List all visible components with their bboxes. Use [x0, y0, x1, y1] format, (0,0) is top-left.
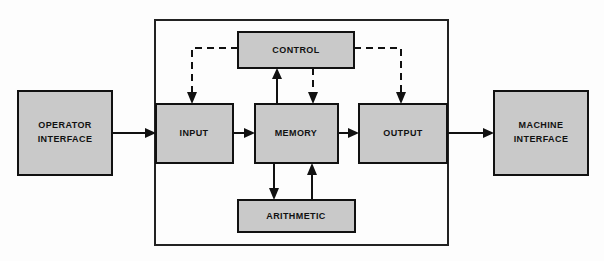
- connector-control-to-memory: [308, 68, 318, 104]
- output-rect[interactable]: [359, 104, 447, 163]
- connector-output-to-machine: [447, 128, 494, 138]
- connector-memory-to-output: [338, 128, 359, 138]
- connector-control-to-output: [354, 48, 406, 104]
- diagram-canvas: OPERATOR INTERFACE CONTROL INPUT MEMORY …: [0, 0, 604, 261]
- block-control[interactable]: CONTROL: [238, 32, 354, 68]
- connector-operator-to-input: [112, 128, 156, 138]
- connector-arithmetic-to-memory: [307, 163, 317, 200]
- connector-input-to-memory: [233, 128, 255, 138]
- control-rect[interactable]: [238, 32, 354, 68]
- connector-memory-to-arithmetic: [269, 163, 279, 200]
- block-operator-interface[interactable]: OPERATOR INTERFACE: [18, 91, 112, 175]
- memory-rect[interactable]: [255, 104, 338, 163]
- connector-control-to-input: [187, 48, 238, 104]
- block-machine-interface[interactable]: MACHINE INTERFACE: [494, 91, 588, 175]
- operator-interface-rect[interactable]: [18, 91, 112, 175]
- block-arithmetic[interactable]: ARITHMETIC: [238, 200, 355, 232]
- block-diagram: OPERATOR INTERFACE CONTROL INPUT MEMORY …: [0, 0, 604, 261]
- connector-memory-to-control: [272, 68, 282, 104]
- input-rect[interactable]: [156, 104, 233, 163]
- machine-interface-rect[interactable]: [494, 91, 588, 175]
- block-input[interactable]: INPUT: [156, 104, 233, 163]
- arithmetic-rect[interactable]: [238, 200, 355, 232]
- block-output[interactable]: OUTPUT: [359, 104, 447, 163]
- block-memory[interactable]: MEMORY: [255, 104, 338, 163]
